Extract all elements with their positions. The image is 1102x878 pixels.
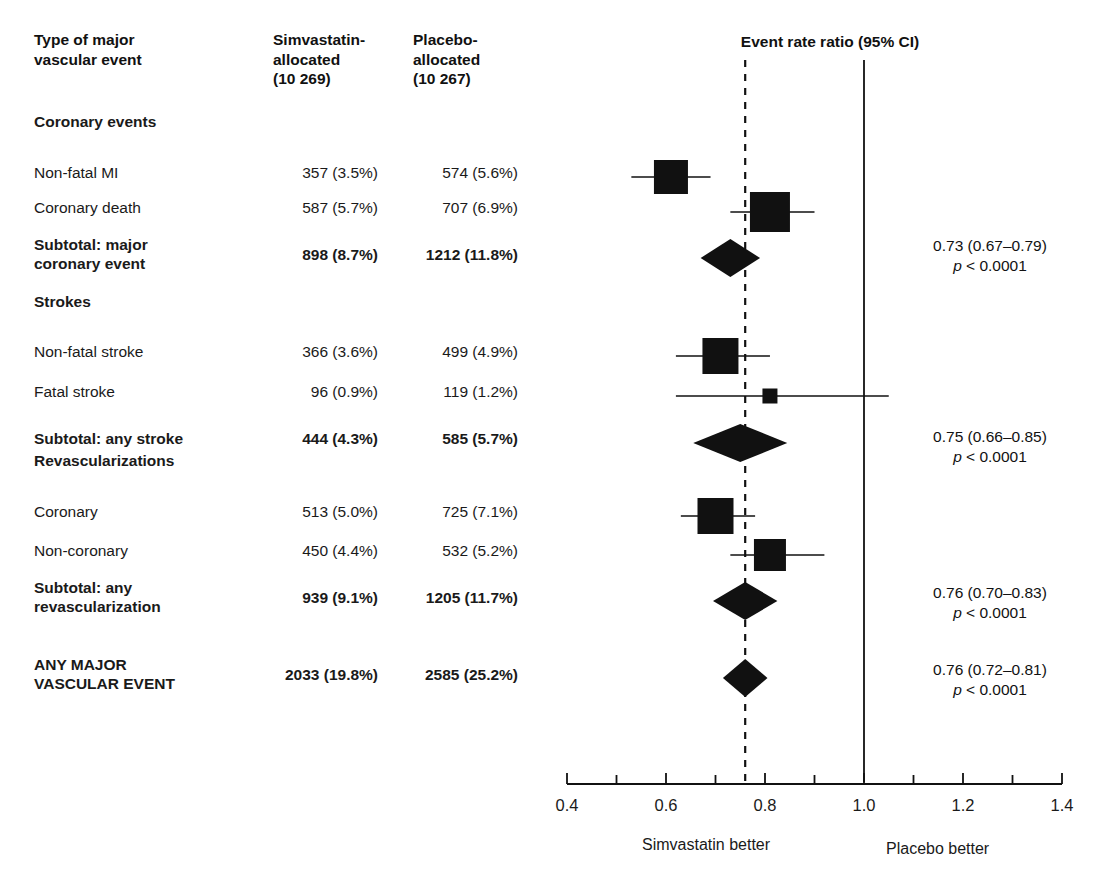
point-estimate-square bbox=[754, 539, 786, 571]
summary-diamond bbox=[693, 424, 787, 462]
summary-diamond bbox=[723, 659, 768, 697]
summary-diamond bbox=[713, 582, 777, 620]
axis-tick-label-1-0: 1.0 bbox=[824, 796, 904, 815]
axis-tick-label-1-4: 1.4 bbox=[1022, 796, 1102, 815]
axis-tick-label-0-8: 0.8 bbox=[725, 796, 805, 815]
axis-tick-label-0-4: 0.4 bbox=[527, 796, 607, 815]
axis-left-better-label: Simvastatin better bbox=[642, 836, 770, 854]
point-estimate-square bbox=[698, 498, 734, 534]
axis-right-better-label: Placebo better bbox=[886, 840, 989, 858]
forest-plot-canvas bbox=[0, 0, 1102, 878]
summary-diamond bbox=[701, 239, 760, 277]
point-estimate-square bbox=[654, 160, 688, 194]
point-estimate-square bbox=[750, 192, 790, 232]
point-estimate-square bbox=[762, 389, 777, 404]
axis-tick-label-1-2: 1.2 bbox=[923, 796, 1003, 815]
forest-plot-figure: Type of major vascular event Simvastatin… bbox=[0, 0, 1102, 878]
point-estimate-square bbox=[702, 338, 738, 374]
axis-tick-label-0-6: 0.6 bbox=[626, 796, 706, 815]
